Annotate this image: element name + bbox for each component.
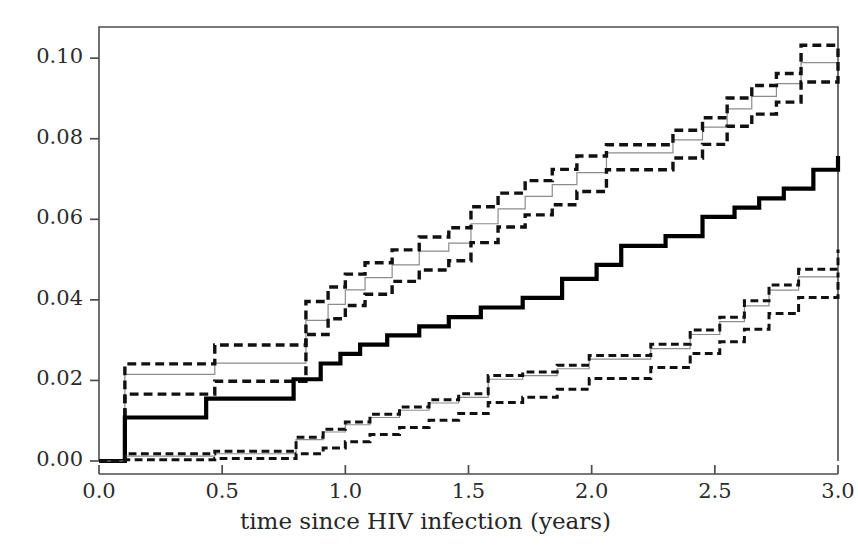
x-tick-label-0: 0.0: [64, 479, 134, 503]
series-middle-estimate: [99, 156, 838, 461]
y-tick-label-1: 0.02: [9, 366, 83, 390]
x-tick-label-5: 2.5: [680, 479, 750, 503]
y-tick-label-5: 0.10: [9, 44, 83, 68]
y-tick-label-0: 0.00: [9, 447, 83, 471]
data-series-group: [99, 45, 838, 461]
series-lower-group-estimate: [99, 263, 838, 461]
x-tick-label-4: 2.0: [557, 479, 627, 503]
series-lower-group-ci-lower: [99, 272, 838, 461]
axis-ticks: [90, 58, 838, 474]
y-tick-label-2: 0.04: [9, 286, 83, 310]
axes-frame: [99, 27, 838, 474]
x-tick-label-2: 1.0: [310, 479, 380, 503]
x-tick-label-1: 0.5: [187, 479, 257, 503]
y-tick-label-3: 0.06: [9, 205, 83, 229]
x-tick-label-6: 3.0: [803, 479, 858, 503]
series-lower-group-ci-upper: [99, 250, 838, 461]
x-axis-title: time since HIV infection (years): [0, 508, 851, 534]
y-tick-label-4: 0.08: [9, 125, 83, 149]
plot-frame: [99, 27, 838, 461]
x-tick-label-3: 1.5: [434, 479, 504, 503]
